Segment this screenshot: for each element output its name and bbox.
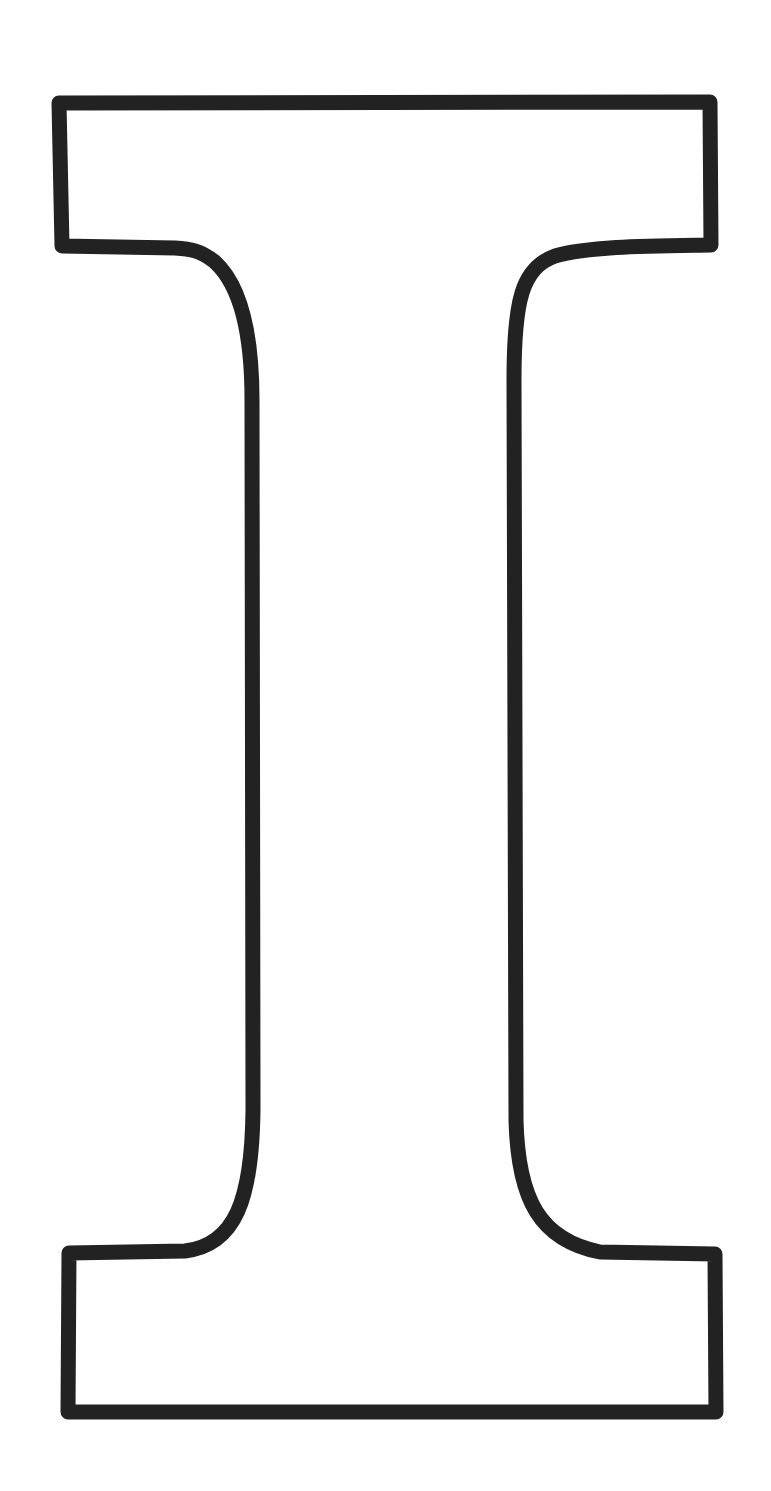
letter-canvas: I xyxy=(0,0,771,1491)
letter-i-outline-icon xyxy=(0,0,771,1491)
letter-i-outline xyxy=(59,102,716,1412)
